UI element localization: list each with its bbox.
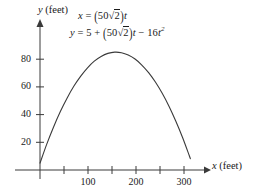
projectile-trajectory-path <box>40 52 190 163</box>
y-axis-label: y (feet) <box>38 4 68 15</box>
x-axis-arrowhead <box>204 167 211 174</box>
equation-y: y = 5 + (50√2)t − 16t2 <box>70 25 165 38</box>
projectile-motion-figure: x = (50√2)t y = 5 + (50√2)t − 16t2 y (fe… <box>0 0 258 196</box>
y-tick-label-20: 20 <box>9 136 31 147</box>
x-tick-label-100: 100 <box>73 176 103 187</box>
y-tick-label-60: 60 <box>9 80 31 91</box>
equation-x: x = (50√2)t <box>78 9 127 21</box>
x-tick-label-200: 200 <box>121 176 151 187</box>
y-axis-arrowhead <box>37 19 44 27</box>
x-axis-label: x (feet) <box>212 160 242 171</box>
x-tick-label-300: 300 <box>169 176 199 187</box>
y-tick-label-40: 40 <box>9 108 31 119</box>
y-tick-label-80: 80 <box>9 53 31 64</box>
